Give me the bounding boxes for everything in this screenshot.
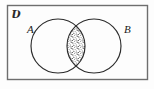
set-b-label: B [124,24,131,35]
universal-set-label: Ʋ [11,9,20,20]
venn-diagram-canvas [0,0,154,89]
set-a-label: A [27,24,34,35]
venn-diagram-figure: Ʋ A B [0,0,154,89]
